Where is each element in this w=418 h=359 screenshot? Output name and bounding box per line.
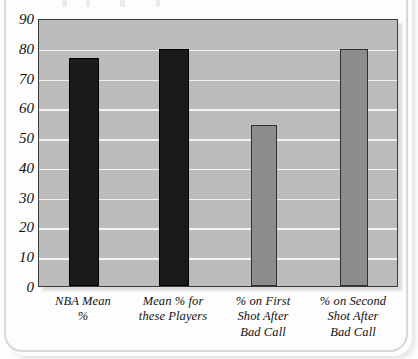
x-label-line: % on Second [298,294,408,309]
bar-4 [340,49,368,286]
y-axis-tick-50: 50 [0,131,34,146]
y-axis-tick-10: 10 [0,250,34,265]
x-label-line: Shot After [298,309,408,324]
y-axis-tick-labels: 0102030405060708090 [0,19,34,287]
x-label-4: % on SecondShot AfterBad Call [298,294,408,340]
y-axis-tick-20: 20 [0,220,34,235]
plot-area [38,19,398,287]
y-axis-tick-80: 80 [0,41,34,56]
y-axis-tick-40: 40 [0,160,34,175]
y-axis-tick-0: 0 [0,280,34,295]
y-axis-tick-70: 70 [0,71,34,86]
bar-2 [159,49,189,286]
bar-1 [69,58,99,286]
chart-figure: 0102030405060708090 NBA Mean%Mean % fort… [0,0,418,359]
clipped-caption-remnant [56,0,206,7]
y-axis-tick-90: 90 [0,12,34,27]
x-label-line: Bad Call [298,325,408,340]
bar-3 [251,125,277,286]
y-axis-tick-60: 60 [0,101,34,116]
y-axis-tick-30: 30 [0,190,34,205]
